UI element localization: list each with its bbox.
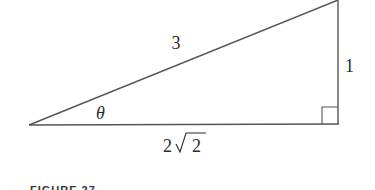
hypotenuse-line bbox=[29, 0, 338, 125]
adjacent-line bbox=[29, 124, 339, 125]
radical-sign-icon bbox=[176, 133, 206, 152]
hypotenuse-label: 3 bbox=[172, 33, 181, 53]
right-angle-marker bbox=[322, 107, 338, 124]
svg-text:2: 2 bbox=[192, 136, 201, 156]
angle-theta-label: θ bbox=[96, 103, 105, 123]
triangle-diagram: 3 1 θ 2 2 bbox=[0, 0, 375, 190]
svg-text:2: 2 bbox=[163, 136, 172, 156]
figure-caption: FIGURE 27 bbox=[30, 184, 96, 190]
adjacent-label: 2 2 bbox=[163, 133, 206, 156]
opposite-label: 1 bbox=[345, 56, 354, 76]
